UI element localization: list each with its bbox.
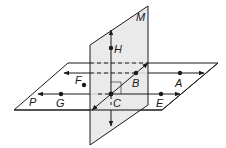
geometry-diagram: M P H B A F G C E: [0, 0, 226, 148]
point-f: [82, 83, 86, 87]
plane-m: [90, 6, 148, 145]
point-b: [134, 71, 138, 75]
label-h: H: [114, 43, 122, 55]
label-plane-p: P: [29, 96, 37, 108]
point-e: [159, 92, 163, 96]
point-c: [109, 92, 114, 97]
point-a: [178, 71, 182, 75]
label-g: G: [56, 97, 65, 109]
label-plane-m: M: [136, 11, 146, 23]
label-a: A: [174, 77, 182, 89]
point-h: [109, 46, 113, 50]
label-b: B: [132, 77, 139, 89]
label-c: C: [113, 97, 121, 109]
point-g: [59, 92, 63, 96]
label-e: E: [156, 97, 164, 109]
